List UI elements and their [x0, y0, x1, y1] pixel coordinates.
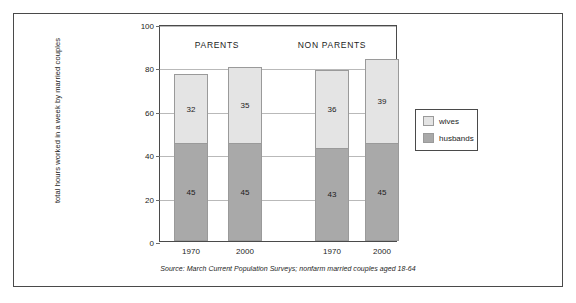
y-tick-mark-80: [156, 69, 160, 70]
y-tick-label-0: 0: [150, 239, 154, 248]
bar-stack-non-parents-2000[interactable]: 39 45 2000: [365, 59, 399, 241]
y-tick-label-100: 100: [141, 22, 154, 31]
bar-value-husbands: 45: [241, 188, 250, 197]
bar-value-husbands: 43: [328, 190, 337, 199]
y-tick-label-80: 80: [145, 65, 154, 74]
bar-value-wives: 39: [378, 97, 387, 106]
x-tick-label: 1970: [323, 247, 341, 256]
bar-value-husbands: 45: [378, 188, 387, 197]
y-tick-mark-40: [156, 156, 160, 157]
bar-stack-parents-2000[interactable]: 35 45 2000: [228, 67, 262, 241]
bar-value-wives: 36: [328, 105, 337, 114]
bar-segment-wives[interactable]: 35: [228, 67, 262, 143]
y-tick-mark-0: [156, 243, 160, 244]
bar-segment-husbands[interactable]: 45: [174, 143, 208, 241]
bar-segment-husbands[interactable]: 45: [228, 143, 262, 241]
bar-segment-wives[interactable]: 39: [365, 59, 399, 144]
legend-item-husbands[interactable]: husbands: [423, 133, 470, 143]
legend-item-wives[interactable]: wives: [423, 116, 470, 126]
y-tick-label-40: 40: [145, 152, 154, 161]
y-tick-label-60: 60: [145, 108, 154, 117]
plot-area: 100 80 60 40 20 0 PARENTS NON PARENTS 32…: [159, 25, 397, 242]
bar-segment-husbands[interactable]: 43: [315, 148, 349, 241]
bar-segment-wives[interactable]: 32: [174, 74, 208, 143]
y-tick-mark-100: [156, 26, 160, 27]
gridline-80: [160, 69, 396, 70]
legend-swatch-wives-icon: [423, 116, 434, 126]
legend-label-husbands: husbands: [439, 134, 474, 143]
bar-stack-non-parents-1970[interactable]: 36 43 1970: [315, 70, 349, 241]
bar-segment-husbands[interactable]: 45: [365, 143, 399, 241]
bar-stack-parents-1970[interactable]: 32 45 1970: [174, 74, 208, 241]
y-axis-title: total hours worked in a week by married …: [53, 13, 62, 228]
legend-swatch-husbands-icon: [423, 133, 434, 143]
y-tick-mark-60: [156, 113, 160, 114]
bar-value-husbands: 45: [187, 188, 196, 197]
bar-segment-wives[interactable]: 36: [315, 70, 349, 148]
gridline-100: [160, 26, 396, 27]
x-tick-label: 2000: [373, 247, 391, 256]
group-heading-non-parents: NON PARENTS: [298, 40, 366, 50]
x-tick-label: 1970: [182, 247, 200, 256]
y-tick-mark-20: [156, 200, 160, 201]
bar-value-wives: 35: [241, 101, 250, 110]
bar-value-wives: 32: [187, 105, 196, 114]
source-note: Source: March Current Population Surveys…: [14, 265, 562, 272]
legend-label-wives: wives: [439, 117, 459, 126]
chart-legend: wives husbands: [415, 109, 478, 151]
group-heading-parents: PARENTS: [195, 40, 239, 50]
chart-figure-frame: total hours worked in a week by married …: [13, 13, 563, 287]
y-tick-label-20: 20: [145, 195, 154, 204]
x-tick-label: 2000: [236, 247, 254, 256]
